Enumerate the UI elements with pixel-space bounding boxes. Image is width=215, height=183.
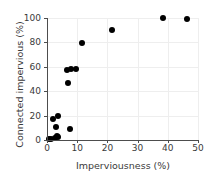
data-point bbox=[53, 124, 59, 130]
data-point bbox=[79, 40, 85, 46]
x-axis-tick-label: 10 bbox=[71, 143, 82, 154]
gridline-vertical bbox=[198, 18, 199, 140]
gridline-horizontal bbox=[47, 42, 198, 43]
y-axis-tick bbox=[44, 18, 47, 19]
x-axis-spine bbox=[47, 140, 199, 141]
gridline-horizontal bbox=[47, 116, 198, 117]
data-point bbox=[109, 27, 115, 33]
x-axis-label: Imperviousness (%) bbox=[47, 160, 199, 171]
x-axis-tick-label: 30 bbox=[132, 143, 143, 154]
data-point bbox=[65, 80, 71, 86]
y-axis-tick-label: 20 bbox=[15, 110, 41, 121]
y-axis-spine bbox=[47, 18, 48, 140]
data-point bbox=[67, 126, 73, 132]
scatter-plot-figure: Imperviousness (%) Connected impervious … bbox=[0, 0, 215, 183]
y-axis-tick bbox=[44, 91, 47, 92]
data-point bbox=[184, 16, 190, 22]
gridline-vertical bbox=[138, 18, 139, 140]
gridline-horizontal bbox=[47, 91, 198, 92]
plot-area bbox=[47, 18, 198, 140]
y-axis-tick bbox=[44, 140, 47, 141]
y-axis-tick-label: 60 bbox=[15, 61, 41, 72]
gridline-vertical bbox=[168, 18, 169, 140]
x-axis-tick-label: 40 bbox=[162, 143, 173, 154]
y-axis-tick bbox=[44, 116, 47, 117]
x-axis-tick-label: 0 bbox=[44, 143, 50, 154]
y-axis-tick bbox=[44, 67, 47, 68]
y-axis-tick-label: 100 bbox=[15, 13, 41, 24]
data-point bbox=[55, 113, 61, 119]
x-axis-tick-label: 50 bbox=[192, 143, 203, 154]
y-axis-tick-label: 80 bbox=[15, 37, 41, 48]
y-axis-tick-label: 40 bbox=[15, 86, 41, 97]
x-axis-tick-label: 20 bbox=[102, 143, 113, 154]
data-point bbox=[73, 66, 79, 72]
gridline-vertical bbox=[107, 18, 108, 140]
gridline-vertical bbox=[77, 18, 78, 140]
y-axis-tick bbox=[44, 42, 47, 43]
data-point bbox=[160, 15, 166, 21]
gridline-horizontal bbox=[47, 18, 198, 19]
y-axis-tick-label: 0 bbox=[15, 135, 41, 146]
